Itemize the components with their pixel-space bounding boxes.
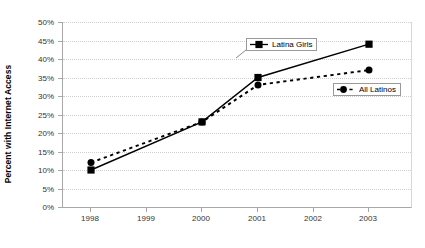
x-tick-label-2000: 2000 [171, 214, 231, 223]
y-tick-label-35: 35% [10, 73, 54, 82]
legend-item-all-latinos[interactable]: All Latinos [333, 83, 401, 96]
y-tick-label-0: 0% [10, 203, 54, 212]
y-tick-label-30: 30% [10, 92, 54, 101]
x-tick-mark-1998 [90, 207, 91, 212]
y-tick-label-5: 5% [10, 184, 54, 193]
legend-swatch-solid-square-icon [250, 40, 268, 49]
y-tick-label-25: 25% [10, 110, 54, 119]
x-tick-mark-2000 [201, 207, 202, 212]
x-tick-mark-2002 [313, 207, 314, 212]
marker-all-latinos-2000 [199, 118, 206, 125]
marker-all-latinos-2001 [255, 81, 262, 88]
x-tick-mark-2001 [257, 207, 258, 212]
x-tick-label-2001: 2001 [227, 214, 287, 223]
y-tick-label-45: 45% [10, 36, 54, 45]
x-tick-label-2002: 2002 [283, 214, 343, 223]
marker-latina-girls-1998 [87, 166, 94, 173]
series-line-all-latinos [91, 70, 369, 163]
x-tick-mark-1999 [146, 207, 147, 212]
x-tick-label-2003: 2003 [338, 214, 398, 223]
y-tick-label-10: 10% [10, 166, 54, 175]
y-tick-label-15: 15% [10, 147, 54, 156]
x-tick-label-1999: 1999 [116, 214, 176, 223]
y-tick-label-20: 20% [10, 129, 54, 138]
legend-item-latina-girls[interactable]: Latina Girls [246, 38, 317, 51]
marker-latina-girls-2001 [254, 74, 261, 81]
series-line-latina-girls [91, 44, 369, 170]
x-tick-label-1998: 1998 [60, 214, 120, 223]
legend-label-latina-girls: Latina Girls [271, 41, 312, 49]
marker-all-latinos-2003 [366, 67, 373, 74]
y-tick-label-40: 40% [10, 55, 54, 64]
legend-swatch-dashed-diamond-icon [337, 85, 355, 94]
marker-latina-girls-2003 [365, 41, 372, 48]
series-plot [63, 22, 411, 207]
chart-container: Percent with Internet Access 50% 45% 40%… [0, 0, 425, 248]
plot-area [62, 22, 412, 208]
y-tick-label-50: 50% [10, 18, 54, 27]
legend-label-all-latinos: All Latinos [358, 86, 396, 94]
marker-all-latinos-1998 [88, 159, 95, 166]
x-tick-mark-2003 [368, 207, 369, 212]
y-axis-ticks: 50% 45% 40% 35% 30% 25% 20% 15% 10% 5% 0… [0, 0, 62, 248]
